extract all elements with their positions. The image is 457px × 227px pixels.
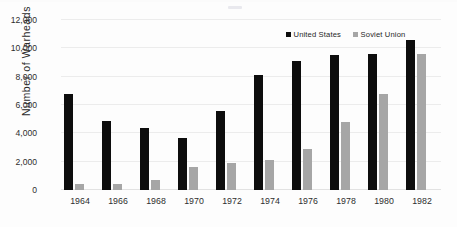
bar-1972-united-states — [216, 111, 225, 190]
bar-1974-united-states — [254, 75, 263, 190]
x-tick-label-1966: 1966 — [98, 196, 138, 206]
legend-swatch-soviet-union — [353, 32, 358, 37]
bar-1970-soviet-union — [189, 167, 198, 190]
bar-1974-soviet-union — [265, 160, 274, 190]
bar-1982-united-states — [406, 40, 415, 190]
x-tick-label-1976: 1976 — [288, 196, 328, 206]
bar-group-1980 — [365, 20, 403, 190]
x-tick-label-1968: 1968 — [136, 196, 176, 206]
x-tick-label-1978: 1978 — [326, 196, 366, 206]
y-tick-label-4000: 4,000 — [0, 128, 37, 138]
bar-1978-soviet-union — [341, 122, 350, 190]
bar-group-1982 — [403, 20, 441, 190]
bar-1980-soviet-union — [379, 94, 388, 190]
y-tick-label-0: 0 — [0, 185, 37, 195]
plot-area: 02,0004,0006,0008,00010,00012,000 196419… — [61, 20, 441, 190]
bar-group-1970 — [175, 20, 213, 190]
y-tick-label-6000: 6,000 — [0, 100, 37, 110]
x-tick-label-1980: 1980 — [364, 196, 404, 206]
bar-1970-united-states — [178, 138, 187, 190]
bar-1982-soviet-union — [417, 54, 426, 190]
bar-1966-united-states — [102, 121, 111, 190]
bar-group-1968 — [137, 20, 175, 190]
x-tick-label-1982: 1982 — [402, 196, 442, 206]
bar-1964-united-states — [64, 94, 73, 190]
chart-legend: United StatesSoviet Union — [286, 30, 405, 39]
bar-1964-soviet-union — [75, 184, 84, 190]
y-tick-label-2000: 2,000 — [0, 157, 37, 167]
legend-swatch-united-states — [286, 32, 291, 37]
y-tick-label-10000: 10,000 — [0, 43, 37, 53]
y-tick-label-12000: 12,000 — [0, 15, 37, 25]
x-tick-label-1970: 1970 — [174, 196, 214, 206]
bar-1976-united-states — [292, 61, 301, 190]
legend-entry-soviet-union[interactable]: Soviet Union — [353, 30, 405, 39]
bar-series-layer — [61, 20, 441, 190]
y-tick-label-8000: 8,000 — [0, 72, 37, 82]
warheads-bar-chart: Number of Warheads 02,0004,0006,0008,000… — [0, 0, 457, 227]
bar-1968-soviet-union — [151, 180, 160, 190]
bar-1966-soviet-union — [113, 184, 122, 190]
legend-label-united-states: United States — [294, 30, 342, 39]
bar-1976-soviet-union — [303, 149, 312, 190]
bar-1968-united-states — [140, 128, 149, 190]
bar-1980-united-states — [368, 54, 377, 190]
bar-group-1974 — [251, 20, 289, 190]
x-tick-label-1974: 1974 — [250, 196, 290, 206]
legend-label-soviet-union: Soviet Union — [361, 30, 406, 39]
legend-entry-united-states[interactable]: United States — [286, 30, 341, 39]
x-tick-label-1964: 1964 — [60, 196, 100, 206]
x-tick-label-1972: 1972 — [212, 196, 252, 206]
bar-group-1964 — [61, 20, 99, 190]
bar-group-1976 — [289, 20, 327, 190]
bar-group-1972 — [213, 20, 251, 190]
bar-group-1966 — [99, 20, 137, 190]
bar-group-1978 — [327, 20, 365, 190]
bar-1972-soviet-union — [227, 163, 236, 190]
bar-1978-united-states — [330, 55, 339, 190]
